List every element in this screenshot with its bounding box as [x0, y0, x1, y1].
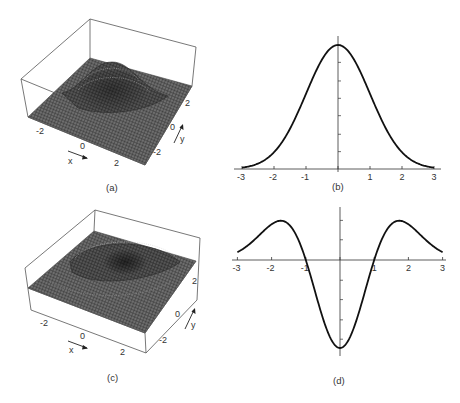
- panel-d-line-chart: -3-2-1123 (d): [232, 207, 446, 386]
- panel-c-x-tick-neg2: -2: [40, 318, 48, 328]
- panel-c-x-axis-label: x: [69, 345, 74, 355]
- panel-a-caption: (a): [106, 182, 118, 193]
- b-x-tick-label: -1: [301, 172, 309, 182]
- panel-b-caption: (b): [332, 181, 344, 192]
- panel-c-central-pit: [103, 249, 147, 275]
- panel-c-surface-plot: -2 0 2 x 2 0 -2 y (c): [25, 210, 200, 383]
- b-x-tick-label: -2: [269, 172, 277, 182]
- b-x-tick-label: 3: [432, 172, 437, 182]
- panel-a-y-axis-label: y: [180, 134, 185, 144]
- panel-c-y-tick-2: 2: [192, 276, 197, 286]
- panel-a-y-tick-0: 0: [170, 122, 175, 132]
- d-x-tick-label: 2: [406, 263, 411, 273]
- d-x-tick-label: -2: [267, 263, 275, 273]
- b-x-tick-label: 1: [368, 172, 373, 182]
- panel-d-caption: (d): [333, 375, 345, 386]
- d-x-tick-label: -3: [232, 263, 240, 273]
- panel-a-y-tick-2: 2: [185, 98, 190, 108]
- panel-c-caption: (c): [107, 372, 118, 383]
- panel-a-bump-shading: [78, 70, 146, 114]
- panel-a-y-tick-neg2: -2: [153, 147, 161, 157]
- b-x-tick-label: 2: [400, 172, 405, 182]
- panel-c-y-tick-0: 0: [175, 309, 180, 319]
- panel-c-y-tick-neg2: -2: [159, 335, 167, 345]
- panel-a-x-tick-2: 2: [114, 158, 119, 168]
- panel-b-line-chart: -3-2-1123 (b): [234, 36, 441, 192]
- d-x-tick-label: 3: [440, 263, 445, 273]
- b-x-tick-label: -3: [237, 172, 245, 182]
- panel-c-x-tick-0: 0: [80, 331, 85, 341]
- panel-a-x-tick-0: 0: [80, 141, 85, 151]
- panel-c-x-tick-2: 2: [120, 347, 125, 357]
- panel-a-x-axis-label: x: [68, 156, 73, 166]
- panel-c-y-axis-label: y: [191, 320, 196, 330]
- figure-canvas: -2 0 2 x 2 0 -2 y (a) -3-2-1123 (b): [0, 0, 460, 403]
- panel-a-surface-plot: -2 0 2 x 2 0 -2 y (a): [21, 19, 196, 193]
- panel-a-x-tick-neg2: -2: [36, 126, 44, 136]
